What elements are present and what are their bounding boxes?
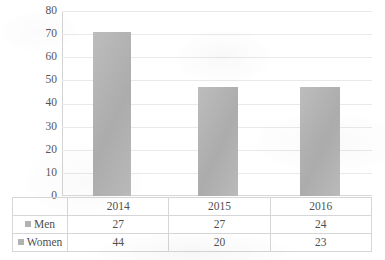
- cell-men-2016: 24: [270, 216, 371, 234]
- y-tick-label-50: 50: [17, 75, 57, 87]
- y-tick-label-80: 80: [17, 5, 57, 17]
- legend-item-women: Women: [13, 234, 68, 252]
- y-tick-label-40: 40: [17, 98, 57, 110]
- bar-2014: [93, 32, 131, 196]
- table-row-years: 2014 2015 2016: [13, 198, 372, 216]
- bar-chart-figure: 80 70 60 50 40 30 20 10 0 2014 2015 2016…: [0, 0, 385, 260]
- gridline-80: [62, 11, 372, 12]
- cell-women-2015: 20: [169, 234, 270, 252]
- cell-women-2016: 23: [270, 234, 371, 252]
- cell-men-2015: 27: [169, 216, 270, 234]
- y-tick-label-20: 20: [17, 144, 57, 156]
- y-tick-label-70: 70: [17, 28, 57, 40]
- bar-2016: [300, 87, 340, 196]
- table-header-2015: 2015: [169, 198, 270, 216]
- chart-data-table: 2014 2015 2016 Men 27 27 24 Women 44 20 …: [12, 197, 372, 252]
- y-tick-label-60: 60: [17, 51, 57, 63]
- y-tick-label-30: 30: [17, 121, 57, 133]
- legend-swatch-icon-men: [25, 221, 31, 227]
- table-row-women: Women 44 20 23: [13, 234, 372, 252]
- cell-women-2014: 44: [68, 234, 169, 252]
- y-tick-label-10: 10: [17, 167, 57, 179]
- legend-item-men: Men: [13, 216, 68, 234]
- bar-2015: [198, 87, 238, 196]
- table-corner-cell: [13, 198, 68, 216]
- cell-men-2014: 27: [68, 216, 169, 234]
- legend-label-women: Women: [27, 236, 62, 248]
- table-header-2016: 2016: [270, 198, 371, 216]
- table-row-men: Men 27 27 24: [13, 216, 372, 234]
- legend-label-men: Men: [34, 218, 55, 230]
- plot-area: [62, 11, 372, 196]
- table-header-2014: 2014: [68, 198, 169, 216]
- legend-swatch-icon-women: [18, 239, 24, 245]
